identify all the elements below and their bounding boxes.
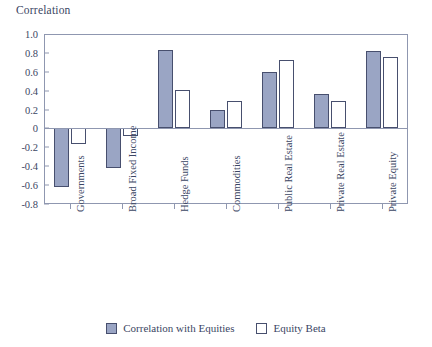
legend-swatch-open-icon <box>256 323 267 334</box>
x-axis-tick-mark <box>382 204 383 209</box>
y-axis-tick-mark <box>44 204 49 205</box>
bar-correlation <box>262 72 277 129</box>
y-axis-tick-mark <box>44 166 49 167</box>
x-axis-tick-mark <box>174 204 175 209</box>
y-axis-tick-mark <box>44 52 49 53</box>
x-axis-tick-label: Private Real Estate <box>335 132 346 212</box>
x-axis-tick-label: Broad Fixed Income <box>127 126 138 212</box>
bar-beta <box>71 128 86 144</box>
x-axis-tick-label: Commodities <box>231 155 242 212</box>
y-axis-tick-label: 0 <box>0 123 44 134</box>
legend-label-correlation-with-equities: Correlation with Equities <box>123 322 234 334</box>
x-axis-tick-label: Public Real Estate <box>283 135 294 212</box>
chart-axis-title: Correlation <box>16 4 71 16</box>
y-axis-tick-mark <box>44 147 49 148</box>
y-axis-tick-mark <box>44 109 49 110</box>
y-axis-tick-label: 0.2 <box>0 104 44 115</box>
y-axis-tick-label: 0.6 <box>0 66 44 77</box>
legend-label-equity-beta: Equity Beta <box>273 322 325 334</box>
x-axis-tick-mark <box>226 204 227 209</box>
bar-correlation <box>54 128 69 187</box>
chart-legend: Correlation with Equities Equity Beta <box>0 322 432 334</box>
x-axis-tick-label: Governments <box>75 155 86 212</box>
legend-item-equity-beta: Equity Beta <box>256 322 325 334</box>
legend-item-correlation-with-equities: Correlation with Equities <box>106 322 234 334</box>
legend-swatch-filled-icon <box>106 323 117 334</box>
x-axis-tick-mark <box>330 204 331 209</box>
y-axis-tick-label: -0.6 <box>0 180 44 191</box>
bar-correlation <box>106 128 121 168</box>
bar-correlation <box>158 50 173 128</box>
zero-baseline <box>44 128 408 129</box>
plot-area <box>44 34 408 204</box>
x-axis-tick-label: Private Equity <box>387 152 398 212</box>
bar-beta <box>227 101 242 128</box>
y-axis-tick-mark <box>44 185 49 186</box>
y-axis-tick-label: -0.8 <box>0 199 44 210</box>
bar-correlation <box>210 110 225 129</box>
bar-correlation <box>366 51 381 128</box>
x-axis-tick-mark <box>278 204 279 209</box>
x-axis-tick-label: Hedge Funds <box>179 156 190 212</box>
y-axis-tick-label: -0.4 <box>0 161 44 172</box>
x-axis-tick-mark <box>122 204 123 209</box>
bar-beta <box>175 90 190 129</box>
x-axis-tick-mark <box>70 204 71 209</box>
y-axis-tick-label: -0.2 <box>0 142 44 153</box>
y-axis-tick-label: 0.4 <box>0 85 44 96</box>
y-axis-tick-label: 1.0 <box>0 29 44 40</box>
bar-beta <box>331 101 346 128</box>
chart-figure: Correlation 1.00.80.60.40.20-0.2-0.4-0.6… <box>0 0 432 347</box>
y-axis-tick-mark <box>44 90 49 91</box>
y-axis-tick-label: 0.8 <box>0 47 44 58</box>
bar-beta <box>383 57 398 129</box>
bar-correlation <box>314 94 329 128</box>
y-axis-tick-mark <box>44 71 49 72</box>
bar-beta <box>279 60 294 129</box>
